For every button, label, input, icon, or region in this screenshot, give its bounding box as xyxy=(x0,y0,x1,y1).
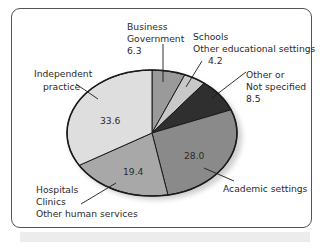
label-business: Business Government 6.3 xyxy=(127,21,184,57)
value-hospitals: 19.4 xyxy=(123,166,143,177)
label-hospitals: Hospitals Clinics Other human services xyxy=(36,184,138,220)
value-independent: 33.6 xyxy=(100,115,120,126)
label-academic: Academic settings xyxy=(223,183,307,195)
value-academic: 28.0 xyxy=(184,150,204,161)
label-schools: Schools Other educational settings 4.2 xyxy=(193,31,315,67)
label-other: Other or Not specified 8.5 xyxy=(246,69,306,105)
label-independent: Independent practice xyxy=(34,67,92,93)
